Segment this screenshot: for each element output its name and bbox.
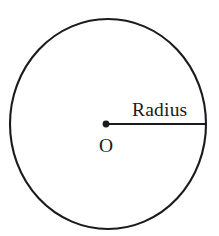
circle-radius-diagram: Radius O: [0, 0, 219, 236]
radius-label: Radius: [132, 99, 187, 120]
center-point-dot: [103, 121, 110, 128]
center-label: O: [99, 135, 113, 156]
diagram-canvas: Radius O: [0, 0, 219, 236]
